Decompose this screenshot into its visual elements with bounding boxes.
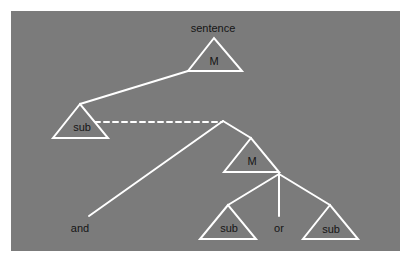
word-and: and — [71, 223, 89, 234]
edge-3 — [223, 121, 251, 138]
parse-tree — [0, 0, 410, 262]
diagram-title: sentence — [191, 23, 236, 34]
node-label-sub2: sub — [220, 223, 238, 234]
edge-6 — [279, 174, 330, 205]
edge-2 — [89, 121, 223, 216]
edge-0 — [80, 71, 188, 104]
node-label-sub3: sub — [322, 224, 340, 235]
node-label-root: M — [209, 56, 218, 67]
node-label-sub1: sub — [73, 122, 91, 133]
edge-4 — [228, 174, 279, 205]
word-or: or — [274, 223, 284, 234]
node-label-m2: M — [247, 156, 256, 167]
